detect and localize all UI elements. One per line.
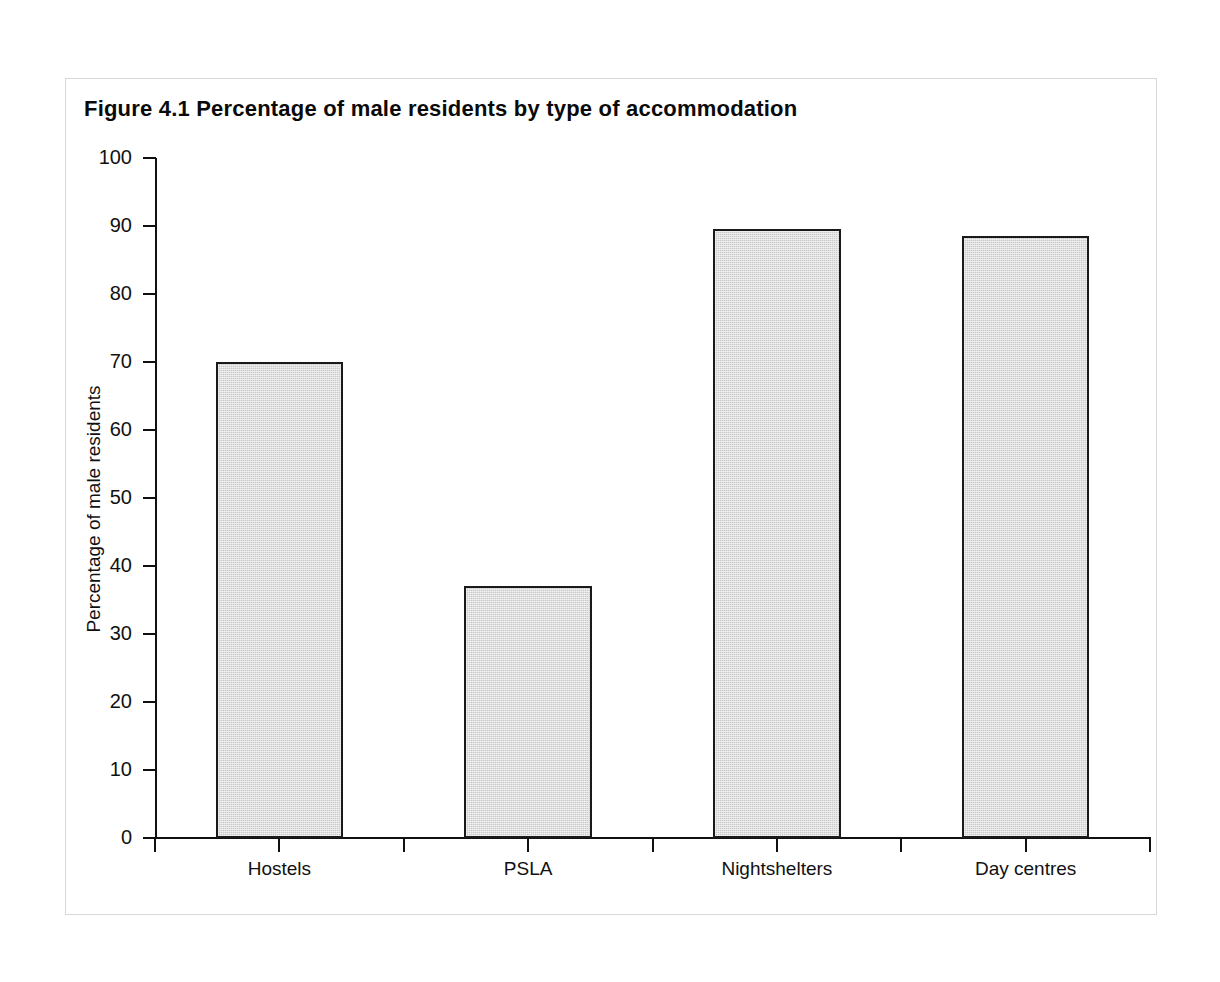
- y-axis-tick-label: 10: [76, 759, 132, 779]
- y-axis-tick: [143, 497, 156, 499]
- y-axis-tick: [143, 293, 156, 295]
- x-axis-category-label: Hostels: [155, 858, 404, 880]
- y-axis-title: Percentage of male residents: [83, 369, 105, 649]
- y-axis-tick: [143, 769, 156, 771]
- y-axis-tick-label: 90: [76, 215, 132, 235]
- y-axis-tick-label: 80: [76, 283, 132, 303]
- x-axis-category-label: Day centres: [901, 858, 1150, 880]
- x-axis-tick: [403, 839, 405, 852]
- bar: [216, 362, 343, 838]
- x-axis-tick: [154, 839, 156, 852]
- y-axis-tick: [143, 361, 156, 363]
- x-axis-tick: [1149, 839, 1151, 852]
- y-axis-tick-label: 100: [76, 147, 132, 167]
- x-axis-tick: [776, 839, 778, 852]
- x-axis-tick: [1025, 839, 1027, 852]
- y-axis-tick-label: 20: [76, 691, 132, 711]
- y-axis-tick: [143, 565, 156, 567]
- y-axis-tick: [143, 633, 156, 635]
- bar: [962, 236, 1089, 838]
- bar: [713, 229, 840, 838]
- bar-chart-plot: 0102030405060708090100 HostelsPSLANights…: [0, 0, 1220, 982]
- x-axis-category-label: Nightshelters: [653, 858, 902, 880]
- y-axis-tick: [143, 701, 156, 703]
- y-axis-tick-label: 0: [76, 827, 132, 847]
- x-axis-category-label: PSLA: [404, 858, 653, 880]
- x-axis-tick: [278, 839, 280, 852]
- x-axis-tick: [900, 839, 902, 852]
- y-axis-tick: [143, 225, 156, 227]
- y-axis-tick: [143, 429, 156, 431]
- x-axis-tick: [527, 839, 529, 852]
- y-axis-tick: [143, 157, 156, 159]
- x-axis-tick: [652, 839, 654, 852]
- bar: [464, 586, 591, 838]
- y-axis-tick-label: 70: [76, 351, 132, 371]
